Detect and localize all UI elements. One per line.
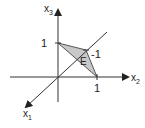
x1-axis-label: x1 — [23, 108, 32, 121]
x1-axis — [26, 32, 107, 107]
plane-label-e: E — [80, 56, 87, 67]
x1-tick-label: -1 — [91, 48, 101, 60]
x3-tick-label: 1 — [41, 37, 47, 49]
x2-tick-label: 1 — [94, 82, 100, 94]
x2-axis-label: x2 — [131, 72, 140, 85]
x3-axis-label: x3 — [44, 3, 53, 16]
coordinate-diagram: x3 x2 x1 1 1 -1 E — [0, 0, 145, 128]
